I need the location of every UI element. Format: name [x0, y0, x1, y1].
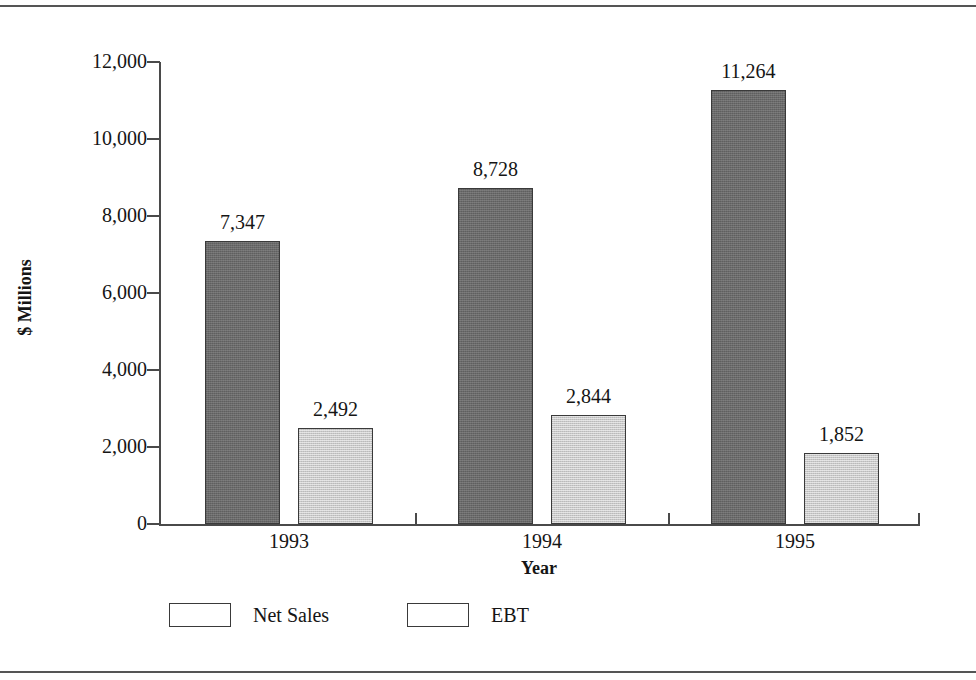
bar-value-label: 2,844 — [519, 386, 659, 406]
y-axis-tick-label-text: 12,000 — [55, 51, 147, 71]
y-axis-tick-label: 2,000 — [30, 436, 147, 456]
legend-swatch — [169, 603, 231, 627]
x-axis-title: Year — [159, 558, 919, 579]
bar-net-sales-1994 — [458, 188, 533, 524]
legend-swatch — [407, 603, 469, 627]
bar-net-sales-1995 — [711, 90, 786, 524]
bar-chart-figure: 02,0004,0006,0008,00010,00012,000 $ Mill… — [0, 0, 976, 680]
y-axis-tick — [147, 369, 160, 371]
y-axis-tick — [147, 446, 160, 448]
bar-ebt-1993 — [298, 428, 373, 524]
y-axis-tick-label-text: 8,000 — [55, 205, 147, 225]
legend-entry-ebt[interactable]: EBT — [407, 603, 529, 627]
y-axis-tick-label: 0 — [30, 513, 147, 533]
bar-ebt-1995 — [804, 453, 879, 524]
bar-value-label: 1,852 — [772, 424, 912, 444]
y-axis-tick-label-text: 10,000 — [55, 128, 147, 148]
bar-value-label: 2,492 — [266, 399, 406, 419]
bar-ebt-1994 — [551, 415, 626, 524]
x-axis-tick — [918, 513, 920, 526]
y-axis-tick — [147, 292, 160, 294]
legend-label: EBT — [491, 604, 529, 627]
bar-net-sales-1993 — [205, 241, 280, 524]
y-axis-line — [159, 62, 161, 526]
y-axis-tick-label: 4,000 — [30, 359, 147, 379]
x-axis-tick — [415, 513, 417, 526]
y-axis-tick-label: 6,000 — [30, 282, 147, 302]
x-axis-category-label: 1994 — [452, 530, 632, 553]
bar-value-label: 11,264 — [679, 61, 819, 81]
y-axis-tick — [147, 61, 160, 63]
y-axis-tick-label: 12,000 — [30, 51, 147, 71]
y-axis-tick-label-text: 2,000 — [55, 436, 147, 456]
bar-value-label: 7,347 — [173, 212, 313, 232]
y-axis-tick-label-text: 6,000 — [55, 282, 147, 302]
y-axis-tick — [147, 523, 160, 525]
x-axis-category-label: 1993 — [199, 530, 379, 553]
y-axis-tick — [147, 138, 160, 140]
y-axis-tick-label: 10,000 — [30, 128, 147, 148]
x-axis-tick — [668, 513, 670, 526]
y-axis-tick-label-text: 0 — [55, 513, 147, 533]
x-axis-category-label: 1995 — [705, 530, 885, 553]
chart-legend: Net SalesEBT — [159, 603, 919, 627]
y-axis-tick-label: 8,000 — [30, 205, 147, 225]
y-axis-title: $ Millions — [15, 223, 36, 373]
y-axis-tick-label-text: 4,000 — [55, 359, 147, 379]
x-axis-line — [159, 524, 919, 526]
legend-entry-net-sales[interactable]: Net Sales — [169, 603, 329, 627]
legend-label: Net Sales — [253, 604, 329, 627]
bar-value-label: 8,728 — [426, 159, 566, 179]
y-axis-tick — [147, 215, 160, 217]
